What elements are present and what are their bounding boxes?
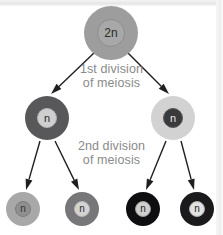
daughter-cell-right: n <box>151 96 195 140</box>
daughter-cell-right-ploidy-label: n <box>170 113 176 124</box>
arrow-left-to-g2-head <box>71 179 79 190</box>
daughter-cell-left-nucleus: n <box>37 108 57 128</box>
label-first-division-line2: of meiosis <box>0 76 223 90</box>
arrow-right-to-g3-head <box>146 178 153 190</box>
gamete-cell-1-ploidy-label: n <box>20 204 26 214</box>
gamete-cell-1-nucleus: n <box>15 201 31 217</box>
daughter-cell-left-ploidy-label: n <box>44 113 50 124</box>
label-first-division: 1st division of meiosis <box>0 62 223 90</box>
arrow-left-to-g1-head <box>26 178 33 190</box>
meiosis-diagram: 2nnnnnnn 1st division of meiosis 2nd div… <box>0 0 223 235</box>
gamete-cell-4-ploidy-label: n <box>194 204 200 214</box>
gamete-cell-2: n <box>65 192 99 226</box>
label-second-division: 2nd division of meiosis <box>0 139 223 167</box>
label-first-division-line1: 1st division <box>0 62 223 76</box>
parent-cell-nucleus: 2n <box>97 19 125 47</box>
gamete-cell-2-nucleus: n <box>74 201 90 217</box>
label-second-division-line1: 2nd division <box>0 139 223 153</box>
gamete-cell-3: n <box>126 192 160 226</box>
parent-cell-ploidy-label: 2n <box>104 27 117 39</box>
gamete-cell-3-nucleus: n <box>135 201 151 217</box>
label-second-division-line2: of meiosis <box>0 153 223 167</box>
parent-cell: 2n <box>84 6 138 60</box>
gamete-cell-4: n <box>180 192 214 226</box>
daughter-cell-left: n <box>25 96 69 140</box>
gamete-cell-3-ploidy-label: n <box>140 204 146 214</box>
arrow-right-to-g4-head <box>188 178 195 190</box>
gamete-cell-2-ploidy-label: n <box>79 204 85 214</box>
gamete-cell-4-nucleus: n <box>189 201 205 217</box>
gamete-cell-1: n <box>6 192 40 226</box>
daughter-cell-right-nucleus: n <box>163 108 183 128</box>
